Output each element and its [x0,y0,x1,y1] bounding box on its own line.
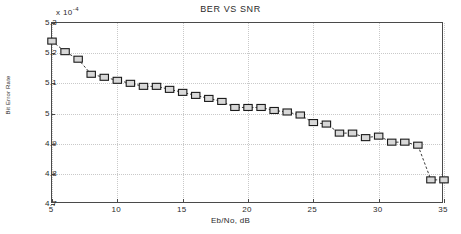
x-axis-tick-label: 30 [373,205,383,214]
data-point-marker [283,109,291,115]
y-axis-tick-label: 4.8 [45,168,57,177]
data-point-marker [74,56,82,62]
chart-figure: BER VS SNR x 10-4 Bit Error Rate 5101520… [0,0,461,234]
data-point-marker [113,77,121,83]
data-point-marker [165,86,173,92]
data-point-marker [139,83,147,89]
data-point-marker [178,89,186,95]
data-point-marker [48,38,56,44]
data-series-layer [52,23,444,204]
data-point-marker [205,95,213,101]
data-point-marker [231,104,239,110]
data-point-marker [270,107,278,113]
x-axis-tick [313,199,314,203]
data-point-marker [218,98,226,104]
data-point-marker [322,121,330,127]
y-axis-tick-label: 5 [45,108,50,117]
data-point-marker [388,139,396,145]
data-point-marker [335,130,343,136]
data-point-marker [61,49,69,55]
x-axis-tick [248,199,249,203]
x-axis-tick [379,199,380,203]
plot-area [51,22,443,203]
y-axis-exponent-power: -4 [73,6,79,12]
gridline-vertical [444,23,445,202]
data-point-marker [244,104,252,110]
data-point-marker [348,130,356,136]
x-axis-title: Eb/No, dB [0,216,461,225]
data-point-marker [192,92,200,98]
y-axis-tick-label: 5.2 [45,48,57,57]
data-point-marker [401,139,409,145]
x-axis-tick [117,199,118,203]
data-point-marker [87,71,95,77]
x-axis-tick-label: 10 [112,205,122,214]
y-axis-tick-label: 4.9 [45,138,57,147]
y-axis-exponent-label: x 10-4 [56,6,79,17]
y-axis-exponent-base: x 10 [56,8,73,17]
y-axis-title: Bit Error Rate [5,55,11,135]
x-axis-tick [183,199,184,203]
x-axis-tick-label: 15 [177,205,187,214]
data-point-marker [309,120,317,126]
x-axis-tick [444,199,445,203]
data-point-marker [440,177,448,183]
data-point-marker [374,133,382,139]
data-point-marker [414,142,422,148]
data-point-marker [361,135,369,141]
x-axis-tick-label: 20 [242,205,252,214]
data-point-marker [152,83,160,89]
data-point-marker [427,177,435,183]
data-point-marker [100,74,108,80]
y-axis-tick-label: 4.7 [45,199,57,208]
data-point-marker [296,112,304,118]
y-axis-tick-label: 5.3 [45,18,57,27]
data-point-marker [257,104,265,110]
y-axis-tick [51,114,55,115]
data-point-marker [126,80,134,86]
x-axis-tick-label: 25 [308,205,318,214]
y-axis-tick-label: 5.1 [45,78,57,87]
x-axis-tick-label: 35 [438,205,448,214]
